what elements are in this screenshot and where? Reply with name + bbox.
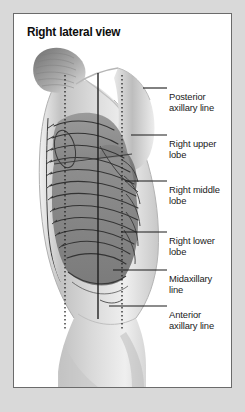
- label-line-2: lobe: [169, 195, 220, 206]
- label-line-1: Right upper: [169, 138, 216, 149]
- illustration-panel: Right lateral view: [13, 13, 232, 388]
- label-line-1: Posterior: [169, 91, 214, 102]
- label-line-2: line: [169, 284, 212, 295]
- label-line-2: lobe: [169, 149, 216, 160]
- label-posterior-axillary-line: Posterior axillary line: [169, 91, 214, 113]
- label-right-upper-lobe: Right upper lobe: [169, 138, 216, 160]
- label-line-2: axillary line: [169, 320, 214, 331]
- label-midaxillary-line: Midaxillary line: [169, 273, 212, 295]
- label-line-1: Right middle: [169, 184, 220, 195]
- label-line-1: Midaxillary: [169, 273, 212, 284]
- hair: [33, 48, 85, 93]
- label-anterior-axillary-line: Anterior axillary line: [169, 309, 214, 331]
- label-line-2: lobe: [169, 246, 215, 257]
- label-line-2: axillary line: [169, 102, 214, 113]
- label-right-middle-lobe: Right middle lobe: [169, 184, 220, 206]
- label-line-1: Anterior: [169, 309, 214, 320]
- label-line-1: Right lower: [169, 235, 215, 246]
- label-right-lower-lobe: Right lower lobe: [169, 235, 215, 257]
